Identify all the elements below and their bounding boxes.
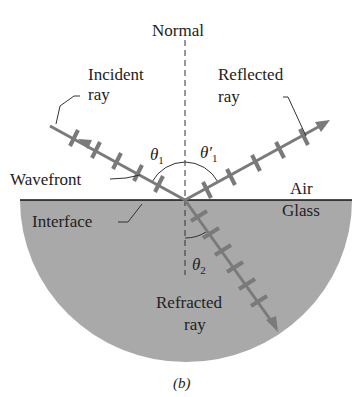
incident-leader bbox=[56, 96, 80, 124]
theta1p-arc bbox=[185, 162, 218, 182]
reflected-label-1: Reflected bbox=[218, 65, 284, 84]
theta1-arc bbox=[152, 162, 185, 182]
air-label: Air bbox=[290, 179, 313, 198]
figure-caption: (b) bbox=[173, 375, 191, 392]
reflected-label-2: ray bbox=[218, 87, 240, 106]
normal-label: Normal bbox=[152, 21, 204, 40]
theta1-label: θ1 bbox=[150, 145, 164, 166]
refracted-label-2: ray bbox=[184, 315, 206, 334]
refraction-diagram: Normal Incident ray Reflected ray Wavefr… bbox=[0, 0, 363, 397]
refracted-label-1: Refracted bbox=[156, 293, 223, 312]
incident-label-2: ray bbox=[88, 85, 110, 104]
wavefront-label: Wavefront bbox=[10, 170, 82, 189]
theta1-prime-label: θ′1 bbox=[200, 143, 218, 164]
glass-label: Glass bbox=[282, 201, 320, 220]
interface-label: Interface bbox=[32, 212, 92, 231]
incident-label-1: Incident bbox=[88, 65, 144, 84]
